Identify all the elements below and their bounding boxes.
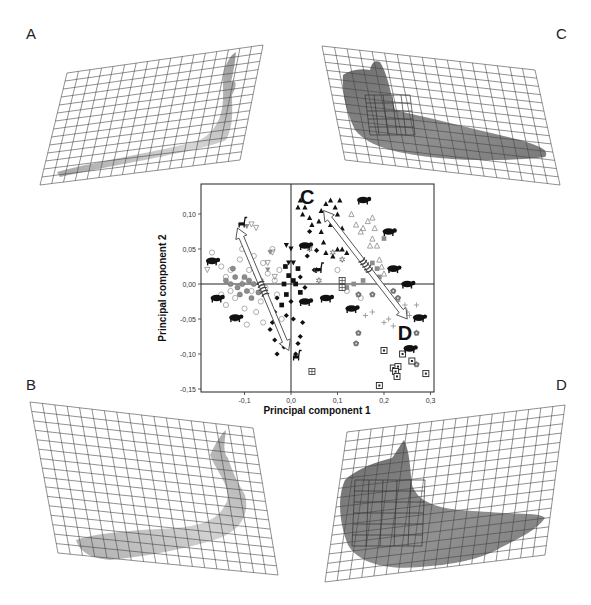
- y-tick-label: 0,05: [182, 246, 196, 253]
- y-tick-label: 0,10: [182, 211, 196, 218]
- deformation-grid-d: [325, 405, 565, 582]
- deformation-grid-b: [30, 402, 278, 575]
- y-tick-label: 0,00: [182, 281, 196, 288]
- y-axis-title: Principal component 2: [157, 234, 168, 342]
- figure-canvas: -0,10,00,10,20,30,100,050,00-0,05-0,10-0…: [0, 0, 591, 605]
- y-tick-label: -0,15: [180, 386, 196, 393]
- pca-scatterplot: -0,10,00,10,20,30,100,050,00-0,05-0,10-0…: [157, 184, 435, 416]
- deformation-grid-c: [322, 46, 560, 185]
- y-tick-label: -0,05: [180, 316, 196, 323]
- annotation-c: C: [300, 186, 314, 208]
- x-tick-label: 0,1: [333, 397, 343, 404]
- annotation-d: D: [398, 322, 412, 344]
- x-tick-label: 0,3: [426, 397, 436, 404]
- x-tick-label: -0,1: [238, 397, 250, 404]
- y-tick-label: -0,10: [180, 351, 196, 358]
- deformation-grid-a: [40, 45, 263, 185]
- x-axis-title: Principal component 1: [263, 405, 371, 416]
- x-tick-label: 0,2: [379, 397, 389, 404]
- x-tick-label: 0,0: [286, 397, 296, 404]
- mandible-shape: [76, 430, 246, 560]
